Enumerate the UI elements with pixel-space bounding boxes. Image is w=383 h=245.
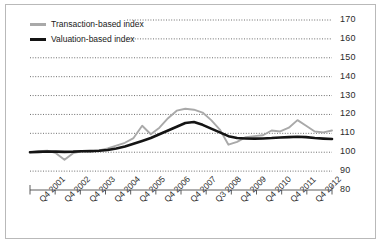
y-axis-tick-label: 80: [340, 184, 350, 194]
y-axis-tick-label: 90: [340, 165, 350, 175]
y-axis-tick-label: 170: [340, 14, 356, 24]
legend-label: Valuation-based index: [51, 34, 135, 44]
y-axis-tick-label: 120: [340, 108, 356, 118]
y-axis-tick-label: 160: [340, 33, 356, 43]
legend-label: Transaction-based index: [51, 19, 144, 29]
line-swatch-icon: [30, 23, 46, 26]
line-swatch-icon: [30, 38, 46, 41]
y-axis-tick-label: 130: [340, 90, 356, 100]
legend-item: Transaction-based index: [30, 19, 144, 29]
y-axis-tick-label: 110: [340, 127, 355, 137]
y-axis-tick-label: 150: [340, 52, 356, 62]
y-axis-tick-label: 100: [340, 146, 356, 156]
y-axis-tick-label: 140: [340, 71, 356, 81]
legend-item: Valuation-based index: [30, 34, 135, 44]
series-line: [30, 122, 332, 152]
